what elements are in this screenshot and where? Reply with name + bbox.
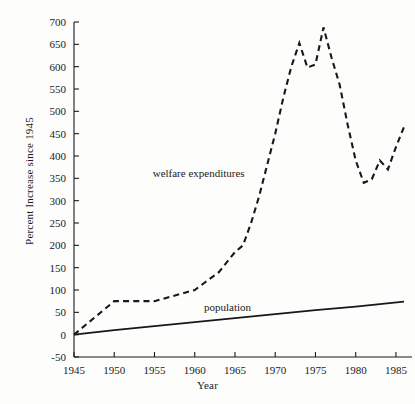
x-tick-label: 1965 — [224, 364, 247, 376]
y-tick-label: -50 — [51, 351, 66, 363]
y-tick-label: 100 — [50, 284, 67, 296]
x-tick-label: 1985 — [385, 364, 408, 376]
x-tick-label: 1955 — [143, 364, 166, 376]
y-tick-label: 350 — [50, 172, 67, 184]
y-tick-label: 700 — [50, 16, 67, 28]
x-tick-label: 1970 — [264, 364, 287, 376]
y-axis-title: Percent Increase since 1945 — [23, 101, 35, 261]
y-tick-label: 250 — [50, 217, 67, 229]
y-tick-label: 650 — [50, 38, 67, 50]
x-axis-tick-labels: 194519501955196019651970197519801985 — [63, 364, 407, 376]
x-axis-title: Year — [0, 379, 415, 391]
y-axis-tick-labels: -500501001502002503003504004505005506006… — [50, 16, 67, 363]
y-tick-label: 300 — [50, 195, 67, 207]
y-tick-label: 400 — [50, 150, 67, 162]
x-tick-label: 1975 — [304, 364, 327, 376]
chart-figure: -500501001502002503003504004505005506006… — [0, 0, 415, 404]
y-tick-label: 600 — [50, 61, 67, 73]
chart-plot-area: -500501001502002503003504004505005506006… — [0, 0, 415, 404]
x-tick-label: 1950 — [103, 364, 126, 376]
y-tick-label: 550 — [50, 83, 67, 95]
series-annotation-population: population — [204, 301, 252, 313]
y-tick-label: 50 — [55, 306, 67, 318]
chart-annotations: welfare expenditurespopulation — [153, 167, 252, 313]
series-annotation-welfare-expenditures: welfare expenditures — [153, 167, 245, 179]
y-tick-label: 150 — [50, 262, 67, 274]
y-tick-label: 450 — [50, 128, 67, 140]
x-tick-label: 1960 — [184, 364, 207, 376]
y-tick-label: 500 — [50, 105, 67, 117]
y-tick-label: 0 — [61, 329, 67, 341]
y-tick-label: 200 — [50, 239, 67, 251]
series-line-welfare-expenditures — [74, 27, 404, 334]
x-tick-label: 1945 — [63, 364, 86, 376]
x-tick-label: 1980 — [345, 364, 368, 376]
